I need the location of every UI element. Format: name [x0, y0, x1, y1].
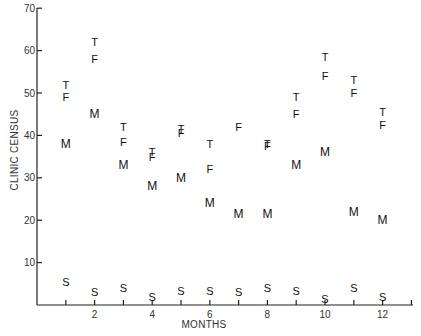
- data-point-s: S: [293, 285, 300, 297]
- data-point-t: T: [350, 74, 357, 86]
- x-tick-label: 2: [92, 309, 98, 320]
- data-point-m: M: [262, 207, 272, 221]
- x-tick-label: 10: [319, 309, 331, 320]
- y-tick-label: 50: [24, 88, 36, 99]
- data-point-f: F: [120, 136, 127, 148]
- data-point-s: S: [120, 282, 127, 294]
- data-point-m: M: [349, 205, 359, 219]
- data-point-f: F: [206, 163, 213, 175]
- data-point-f: F: [91, 53, 98, 65]
- x-tick-label: 12: [377, 309, 389, 320]
- data-point-f: F: [379, 119, 386, 131]
- data-point-m: M: [118, 158, 128, 172]
- data-point-f: F: [264, 140, 271, 152]
- x-ticks: 24681012: [66, 300, 412, 320]
- y-tick-label: 30: [24, 172, 36, 183]
- y-tick-label: 10: [24, 257, 36, 268]
- data-point-t: T: [62, 79, 69, 91]
- y-tick-label: 70: [24, 3, 36, 14]
- data-point-f: F: [350, 87, 357, 99]
- data-point-f: F: [178, 127, 185, 139]
- y-tick-label: 20: [24, 215, 36, 226]
- data-point-f: F: [322, 70, 329, 82]
- y-tick-label: 40: [24, 130, 36, 141]
- x-tick-label: 8: [265, 309, 271, 320]
- data-point-s: S: [264, 282, 271, 294]
- scatter-chart: 10203040506070 24681012 MONTHS CLINIC CE…: [0, 0, 421, 336]
- data-point-s: S: [235, 286, 242, 298]
- data-point-t: T: [322, 51, 329, 63]
- x-axis-title: MONTHS: [181, 319, 226, 330]
- data-point-s: S: [321, 293, 328, 305]
- data-point-m: M: [234, 207, 244, 221]
- y-axis-title: CLINIC CENSUS: [9, 109, 20, 190]
- data-point-s: S: [149, 291, 156, 303]
- x-tick-label: 4: [149, 309, 155, 320]
- data-point-m: M: [291, 158, 301, 172]
- data-point-f: F: [62, 91, 69, 103]
- y-tick-label: 60: [24, 45, 36, 56]
- data-point-m: M: [320, 145, 330, 159]
- data-points: TTTTTTTTTTTFFFFFFFFFFFFMMMMMMMMMMMMSSSSS…: [61, 36, 388, 305]
- data-point-s: S: [350, 282, 357, 294]
- data-point-t: T: [293, 91, 300, 103]
- data-point-f: F: [149, 151, 156, 163]
- data-point-m: M: [176, 171, 186, 185]
- data-point-s: S: [91, 286, 98, 298]
- data-point-t: T: [379, 106, 386, 118]
- data-point-s: S: [62, 276, 69, 288]
- data-point-m: M: [205, 196, 215, 210]
- data-point-t: T: [206, 138, 213, 150]
- data-point-s: S: [177, 285, 184, 297]
- data-point-m: M: [147, 179, 157, 193]
- y-ticks: 10203040506070: [24, 3, 42, 268]
- data-point-f: F: [235, 121, 242, 133]
- data-point-s: S: [206, 285, 213, 297]
- data-point-m: M: [61, 137, 71, 151]
- data-point-m: M: [378, 213, 388, 227]
- data-point-m: M: [90, 107, 100, 121]
- data-point-t: T: [91, 36, 98, 48]
- data-point-t: T: [120, 121, 127, 133]
- data-point-f: F: [293, 108, 300, 120]
- data-point-s: S: [379, 291, 386, 303]
